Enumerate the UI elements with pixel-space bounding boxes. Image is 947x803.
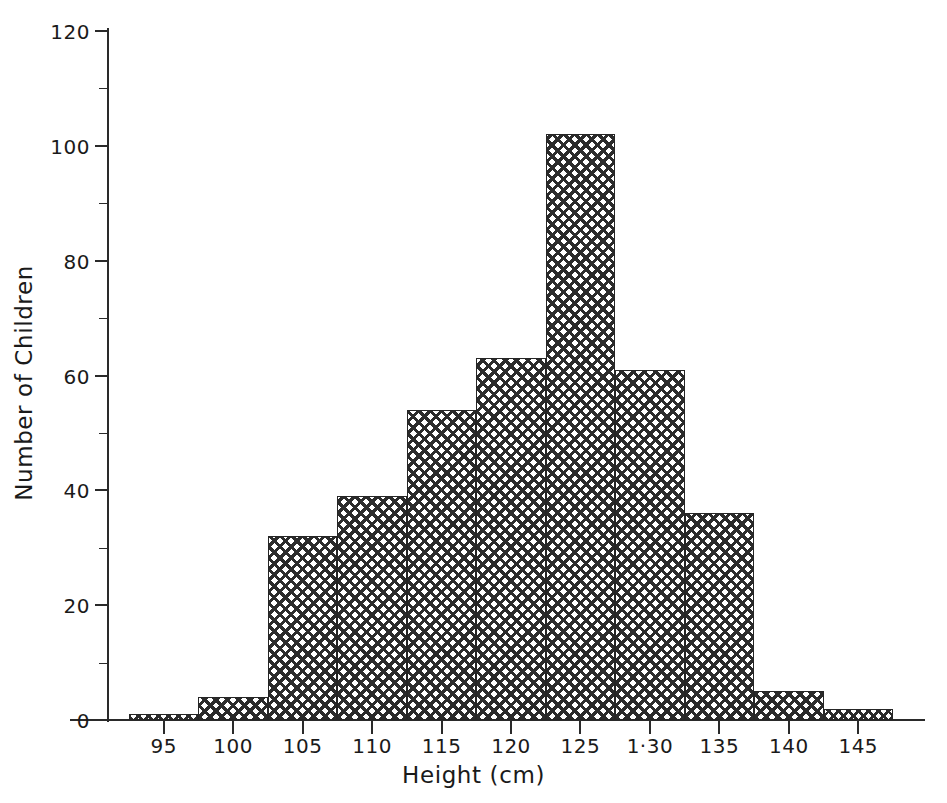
x-tick-mark [718, 721, 720, 734]
y-tick-mark [95, 375, 107, 377]
x-tick-label: 115 [422, 734, 462, 758]
y-minor-tick-mark [99, 318, 107, 319]
x-tick-label: 135 [700, 734, 740, 758]
x-tick-mark [232, 721, 234, 734]
y-tick-label: 100 [38, 137, 90, 157]
y-axis-line [107, 28, 109, 722]
x-tick-label-wrap: 100 [193, 736, 273, 757]
x-tick-label: 140 [769, 734, 809, 758]
y-tick-label: 120 [38, 22, 90, 42]
x-tick-mark [857, 721, 859, 734]
histogram-bar [685, 513, 754, 720]
histogram-bar [476, 358, 545, 720]
histogram-bar [824, 709, 893, 720]
histogram-bar [754, 691, 823, 720]
x-tick-label: 95 [150, 734, 176, 758]
histogram-bar [198, 697, 267, 720]
x-tick-label-wrap: 95 [124, 736, 204, 757]
y-tick-label: 20 [38, 596, 90, 616]
y-minor-tick-mark [99, 548, 107, 549]
y-minor-tick-mark [99, 203, 107, 204]
x-tick-label: 110 [352, 734, 392, 758]
x-tick-label-wrap: 115 [402, 736, 482, 757]
y-axis-title: Number of Children [11, 173, 37, 593]
x-tick-label: 145 [838, 734, 878, 758]
plot-area [129, 31, 893, 720]
y-tick-label-wrap: 0 [30, 711, 90, 731]
x-tick-mark [371, 721, 373, 734]
x-tick-label-wrap: 140 [749, 736, 829, 757]
x-tick-mark [510, 721, 512, 734]
x-tick-label-wrap: 145 [818, 736, 898, 757]
x-tick-mark [163, 721, 165, 734]
x-tick-mark [579, 721, 581, 734]
x-tick-mark [302, 721, 304, 734]
y-tick-label-wrap: 60 [30, 367, 90, 387]
x-tick-mark [788, 721, 790, 734]
y-tick-mark [95, 145, 107, 147]
y-tick-mark [95, 489, 107, 491]
x-tick-label-wrap: 125 [540, 736, 620, 757]
y-minor-tick-mark [99, 88, 107, 89]
x-tick-label: 105 [283, 734, 323, 758]
y-tick-mark [95, 30, 107, 32]
histogram-bar [337, 496, 406, 720]
y-tick-mark [95, 719, 107, 721]
x-tick-label-wrap: 105 [263, 736, 343, 757]
x-tick-mark [441, 721, 443, 734]
x-axis-title: Height (cm) [0, 762, 947, 788]
x-tick-label-wrap: 120 [471, 736, 551, 757]
x-tick-label: 125 [561, 734, 601, 758]
histogram-bar [615, 370, 684, 720]
y-tick-label: 40 [38, 481, 90, 501]
y-tick-label: 80 [38, 252, 90, 272]
y-tick-label-wrap: 80 [30, 252, 90, 272]
y-tick-label-wrap: 100 [30, 137, 90, 157]
y-tick-label: 60 [38, 367, 90, 387]
histogram-bar [407, 410, 476, 720]
x-tick-label-wrap: 1·30 [610, 736, 690, 757]
x-tick-label: 120 [491, 734, 531, 758]
y-tick-mark [95, 260, 107, 262]
x-tick-label-wrap: 110 [332, 736, 412, 757]
histogram-chart: 020406080100120 951001051101151201251·30… [0, 0, 947, 803]
histogram-bar [268, 536, 337, 720]
x-tick-label-wrap: 135 [679, 736, 759, 757]
y-tick-label-wrap: 20 [30, 596, 90, 616]
y-tick-mark [95, 604, 107, 606]
x-tick-mark [649, 721, 651, 734]
y-tick-label-wrap: 40 [30, 481, 90, 501]
histogram-bar [129, 714, 198, 720]
y-tick-label: 0 [38, 711, 90, 731]
y-minor-tick-mark [99, 663, 107, 664]
histogram-bar [546, 134, 615, 720]
y-tick-label-wrap: 120 [30, 22, 90, 42]
y-minor-tick-mark [99, 433, 107, 434]
x-tick-label: 1·30 [627, 734, 674, 758]
x-tick-label: 100 [213, 734, 253, 758]
